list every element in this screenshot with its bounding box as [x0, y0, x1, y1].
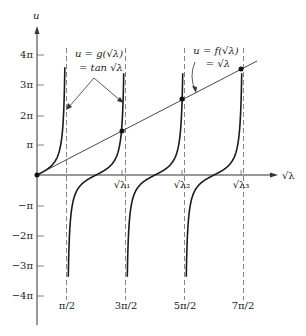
y-tick-4pi: 4π — [20, 49, 33, 60]
u-axis-arrow-icon — [35, 26, 40, 34]
axes: u √λ — [33, 10, 295, 325]
eigenvalue-diagram: u √λ 4π 3π 2π π −π −2π −3π −4π π/2 3π/2 … — [0, 0, 306, 336]
y-tick-3pi: 3π — [20, 79, 33, 90]
y-tick-neg-3pi: −3π — [12, 260, 34, 271]
y-tick-neg-4pi: −4π — [12, 290, 34, 301]
tan-curves — [37, 67, 242, 276]
y-tick-2pi: 2π — [20, 110, 33, 121]
y-tick-neg-pi: −π — [18, 200, 33, 211]
eigen-label-3: √λ₃ — [233, 179, 250, 190]
eigen-label-2: √λ₂ — [174, 179, 191, 190]
g-label-line2: = tan √λ — [79, 62, 123, 73]
intersection-dot-1 — [120, 129, 125, 134]
intersection-dot-3 — [239, 67, 244, 72]
asymptote-label-5pi-2: 5π/2 — [174, 300, 197, 311]
x-axis-arrow-icon — [270, 173, 278, 178]
g-label-line1: u = g(√λ) — [75, 48, 123, 59]
f-label-line1: u = f(√λ) — [193, 45, 238, 56]
line-f — [37, 61, 257, 175]
asymptote-labels: π/2 3π/2 5π/2 7π/2 — [59, 300, 254, 311]
x-axis-label: √λ — [282, 170, 295, 181]
asymptote-label-3pi-2: 3π/2 — [115, 300, 138, 311]
annotation-f: u = f(√λ) = √λ — [192, 45, 239, 93]
origin-dot — [35, 173, 40, 178]
y-tick-pi: π — [26, 139, 33, 150]
asymptote-label-pi-2: π/2 — [59, 300, 75, 311]
arrowhead-icon — [192, 86, 197, 93]
annotation-g: u = g(√λ) = tan √λ — [66, 48, 124, 110]
f-arrow — [192, 62, 195, 90]
g-arrow-right — [94, 78, 121, 101]
g-arrow-left — [68, 78, 94, 108]
tan-branch — [37, 67, 65, 175]
intersection-dot-2 — [180, 97, 185, 102]
eigen-labels: √λ₁ √λ₂ √λ₃ — [114, 170, 250, 190]
u-axis-label: u — [33, 10, 39, 21]
f-label-line2: = √λ — [206, 58, 230, 69]
eigen-label-1: √λ₁ — [114, 179, 131, 190]
asymptote-label-7pi-2: 7π/2 — [232, 300, 255, 311]
y-tick-neg-2pi: −2π — [12, 230, 34, 241]
